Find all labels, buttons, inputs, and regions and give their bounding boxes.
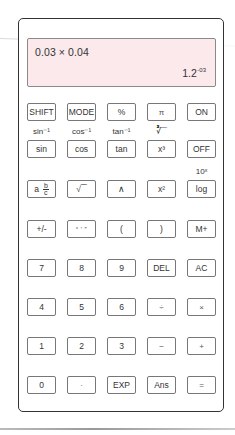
fraction-b-over-c: bc <box>43 182 49 197</box>
key-tan[interactable]: tan <box>107 140 136 158</box>
key-negate[interactable]: +/- <box>27 220 56 238</box>
key-subtract[interactable]: − <box>147 337 176 355</box>
key-8[interactable]: 8 <box>67 259 96 277</box>
result-mantissa: 1.2 <box>182 67 197 79</box>
key-memory-add[interactable]: M+ <box>187 220 216 238</box>
secondary-label-arctan: tan⁻¹ <box>107 127 136 136</box>
key-fraction[interactable]: a bc <box>27 180 56 198</box>
calculator-display: 0.03 × 0.04 1.2-03 <box>27 38 216 87</box>
key-mode[interactable]: MODE <box>67 103 96 121</box>
key-exp[interactable]: EXP <box>107 376 136 394</box>
key-sqrt[interactable]: √‾‾ <box>67 180 96 198</box>
secondary-label-arcsin: sin⁻¹ <box>27 127 56 136</box>
key-percent[interactable]: % <box>107 103 136 121</box>
key-answer[interactable]: Ans <box>147 376 176 394</box>
key-sin[interactable]: sin <box>27 140 56 158</box>
display-result: 1.2-03 <box>182 67 206 79</box>
key-degrees[interactable]: ° ′ ″ <box>67 220 96 238</box>
key-divide[interactable]: ÷ <box>147 298 176 316</box>
key-7[interactable]: 7 <box>27 259 56 277</box>
key-add[interactable]: + <box>187 337 216 355</box>
key-open-paren[interactable]: ( <box>107 220 136 238</box>
key-square[interactable]: x² <box>147 180 176 198</box>
key-multiply[interactable]: × <box>187 298 216 316</box>
key-equals[interactable]: = <box>187 376 216 394</box>
key-power[interactable]: ∧ <box>107 180 136 198</box>
key-5[interactable]: 5 <box>67 298 96 316</box>
key-off[interactable]: OFF <box>187 140 216 158</box>
key-shift[interactable]: SHIFT <box>27 103 56 121</box>
key-2[interactable]: 2 <box>67 337 96 355</box>
key-log[interactable]: log <box>187 180 216 198</box>
key-3[interactable]: 3 <box>107 337 136 355</box>
key-close-paren[interactable]: ) <box>147 220 176 238</box>
key-cube[interactable]: x³ <box>147 140 176 158</box>
secondary-label-arccos: cos⁻¹ <box>67 127 96 136</box>
page-divider <box>0 428 235 430</box>
key-delete[interactable]: DEL <box>147 259 176 277</box>
key-pi[interactable]: π <box>147 103 176 121</box>
key-0[interactable]: 0 <box>27 376 56 394</box>
key-decimal[interactable]: · <box>67 376 96 394</box>
key-4[interactable]: 4 <box>27 298 56 316</box>
key-on[interactable]: ON <box>187 103 216 121</box>
key-6[interactable]: 6 <box>107 298 136 316</box>
secondary-label-cube-root: ∛‾‾ <box>147 126 176 135</box>
key-cos[interactable]: cos <box>67 140 96 158</box>
fraction-icon: a <box>34 184 39 194</box>
key-1[interactable]: 1 <box>27 337 56 355</box>
display-expression: 0.03 × 0.04 <box>35 46 89 58</box>
secondary-label-ten-power: 10ˣ <box>187 167 216 176</box>
result-exponent: -03 <box>197 67 206 73</box>
key-all-clear[interactable]: AC <box>187 259 216 277</box>
key-9[interactable]: 9 <box>107 259 136 277</box>
